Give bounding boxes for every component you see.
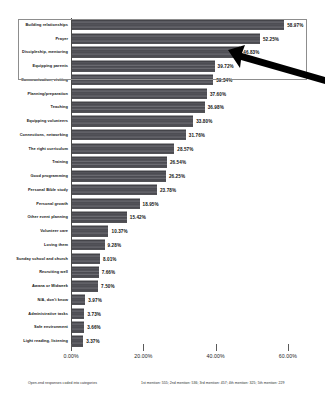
category-label: Good programming <box>0 174 68 178</box>
category-label: Recruiting well <box>0 270 68 274</box>
bar-value-label: 26.25% <box>169 174 185 179</box>
bar-row: Planning/preparation37.60% <box>0 87 325 101</box>
x-axis-tick-label: 20.00% <box>134 353 152 359</box>
bar-row: Connections, networking31.76% <box>0 128 325 142</box>
x-axis-tick-label: 40.00% <box>206 353 224 359</box>
bar-value-label: 7.66% <box>102 270 116 275</box>
bar-row: Volunteer care10.37% <box>0 224 325 238</box>
footnote-left: Open-end responses coded into categories <box>28 381 97 385</box>
bar-value-label: 3.37% <box>86 339 100 344</box>
bar-row: Safe environment3.66% <box>0 321 325 335</box>
category-label: Sunday school and church <box>0 257 68 261</box>
category-label: Loving them <box>0 243 68 247</box>
bar-row: N/A, don't know3.97% <box>0 293 325 307</box>
bar-value-label: 58.97% <box>287 22 303 27</box>
bar-value-label: 28.57% <box>177 146 193 151</box>
bar <box>71 322 84 333</box>
bar <box>71 20 284 31</box>
bar-row: Building relationships58.97% <box>0 18 325 32</box>
x-axis-tick-mark <box>288 344 289 351</box>
bar <box>71 281 98 292</box>
bar-row: Equipping volunteers33.80% <box>0 114 325 128</box>
bar <box>71 116 193 127</box>
bar-row: Loving them9.28% <box>0 238 325 252</box>
category-label: Light reading, listening <box>0 339 68 343</box>
category-label: Safe environment <box>0 325 68 329</box>
bar <box>71 102 205 113</box>
bar-value-label: 37.60% <box>210 91 226 96</box>
category-label: Personal growth <box>0 202 68 206</box>
category-label: Personal Bible study <box>0 188 68 192</box>
bar <box>71 198 140 209</box>
bar-value-label: 33.80% <box>196 119 212 124</box>
bar-row: Light reading, listening3.37% <box>0 334 325 348</box>
category-label: Equipping parents <box>0 64 68 68</box>
bar <box>71 267 99 278</box>
bar-row: Personal growth18.95% <box>0 197 325 211</box>
x-axis-tick-mark <box>216 344 217 351</box>
category-label: Building relationships <box>0 23 68 27</box>
bar <box>71 33 260 44</box>
bar <box>71 226 108 237</box>
bar-row: Administrative tasks3.73% <box>0 307 325 321</box>
bar <box>71 295 85 306</box>
bar-value-label: 23.78% <box>160 187 176 192</box>
bar-row: Discipleship, mentoring46.83% <box>0 46 325 60</box>
bar-value-label: 46.83% <box>243 50 259 55</box>
bar-value-label: 7.50% <box>101 284 115 289</box>
category-label: Teaching <box>0 105 68 109</box>
bar-value-label: 31.76% <box>189 132 205 137</box>
category-label: N/A, don't know <box>0 298 68 302</box>
bar-row: Equipping parents39.72% <box>0 59 325 73</box>
bar-row: Good programming26.25% <box>0 169 325 183</box>
bar <box>71 143 174 154</box>
category-label: Planning/preparation <box>0 92 68 96</box>
bar <box>71 88 207 99</box>
category-label: The right curriculum <box>0 147 68 151</box>
bar-value-label: 18.95% <box>143 201 159 206</box>
bar <box>71 61 215 72</box>
category-label: Prayer <box>0 37 68 41</box>
bar-row: Sunday school and church8.01% <box>0 252 325 266</box>
bar <box>71 253 100 264</box>
category-label: Discipleship, mentoring <box>0 50 68 54</box>
x-axis-tick-mark <box>143 344 144 351</box>
bar <box>71 47 240 58</box>
bar <box>71 240 105 251</box>
bar-value-label: 39.72% <box>218 64 234 69</box>
bar <box>71 75 213 86</box>
bar-row: The right curriculum28.57% <box>0 142 325 156</box>
bar-value-label: 26.54% <box>170 160 186 165</box>
bar-value-label: 15.42% <box>130 215 146 220</box>
bar-value-label: 39.34% <box>216 77 232 82</box>
bar-row: Training26.54% <box>0 156 325 170</box>
bar <box>71 171 166 182</box>
bar-row: Recruiting well7.66% <box>0 266 325 280</box>
bar-value-label: 52.25% <box>263 36 279 41</box>
bar-value-label: 3.66% <box>87 325 101 330</box>
bar <box>71 185 157 196</box>
bar-value-label: 3.73% <box>87 311 101 316</box>
value-axis-line <box>71 18 72 348</box>
category-label: Connections, networking <box>0 133 68 137</box>
category-label: Communication, visiting <box>0 78 68 82</box>
bar-row: Personal Bible study23.78% <box>0 183 325 197</box>
category-label: Training <box>0 160 68 164</box>
bar <box>71 212 127 223</box>
bar-value-label: 36.98% <box>208 105 224 110</box>
category-label: Awana or Midweek <box>0 284 68 288</box>
bar-chart: Building relationships58.97%Prayer52.25%… <box>0 0 325 405</box>
category-label: Administrative tasks <box>0 312 68 316</box>
x-axis-tick-mark <box>71 344 72 351</box>
bar-row: Teaching36.98% <box>0 101 325 115</box>
plot-area: Building relationships58.97%Prayer52.25%… <box>0 18 325 348</box>
category-label: Volunteer care <box>0 229 68 233</box>
bar <box>71 130 186 141</box>
bar-row: Prayer52.25% <box>0 32 325 46</box>
bar-value-label: 3.97% <box>88 297 102 302</box>
x-axis-tick-label: 60.00% <box>279 353 297 359</box>
bar-value-label: 10.37% <box>111 229 127 234</box>
bar <box>71 308 84 319</box>
bar-row: Awana or Midweek7.50% <box>0 279 325 293</box>
bar <box>71 157 167 168</box>
